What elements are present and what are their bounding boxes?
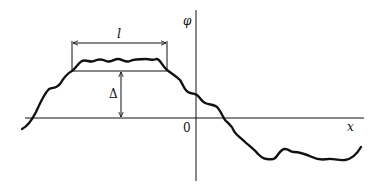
delta-label: Δ (109, 88, 118, 100)
origin-label: 0 (183, 122, 191, 134)
diagram-canvas (0, 0, 383, 190)
y-axis-label: φ (183, 15, 191, 27)
potential-curve (22, 59, 361, 160)
length-label: l (117, 27, 121, 40)
x-axis-label: x (347, 121, 354, 133)
